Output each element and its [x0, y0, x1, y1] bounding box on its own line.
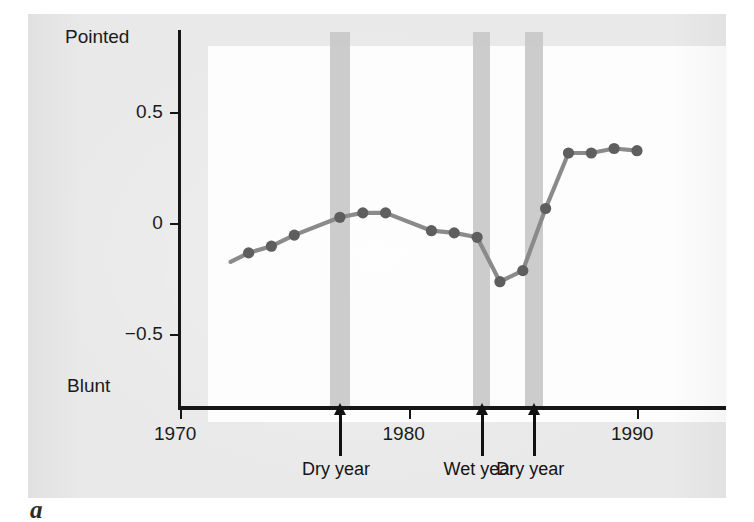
data-series-layer: [0, 0, 754, 522]
data-point: [357, 207, 368, 218]
annotation-arrow-1: [481, 414, 484, 456]
data-point: [334, 212, 345, 223]
data-point: [494, 276, 505, 287]
data-point: [586, 147, 597, 158]
data-point: [609, 143, 620, 154]
annotation-arrow-0: [339, 414, 342, 456]
annotation-label-dry-year-0: Dry year: [302, 459, 370, 480]
data-point: [380, 207, 391, 218]
series-markers: [243, 143, 643, 287]
data-point: [540, 203, 551, 214]
data-point: [631, 145, 642, 156]
data-point: [243, 247, 254, 258]
annotation-label-dry-year-2: Dry year: [496, 459, 564, 480]
data-point: [289, 230, 300, 241]
annotation-arrow-2: [533, 414, 536, 456]
figure-caption-letter: a: [30, 496, 43, 522]
data-point: [563, 147, 574, 158]
data-point: [266, 241, 277, 252]
data-point: [472, 232, 483, 243]
data-point: [517, 265, 528, 276]
series-line: [231, 149, 637, 282]
data-point: [426, 225, 437, 236]
data-point: [449, 227, 460, 238]
